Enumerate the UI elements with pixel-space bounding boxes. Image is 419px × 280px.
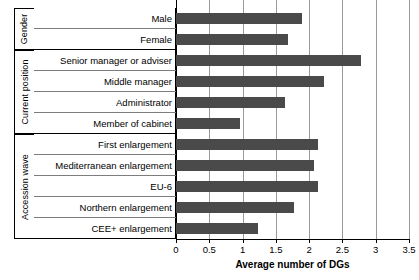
bar-chart: GenderCurrent positionAccession wave Mal… <box>0 0 419 280</box>
group-label-column: GenderCurrent positionAccession wave <box>14 8 34 239</box>
x-tick-0 <box>176 239 177 243</box>
category-label-column: MaleFemaleSenior manager or adviserMiddl… <box>34 8 176 239</box>
x-tick-0.5 <box>209 239 210 243</box>
category-label: Male <box>34 8 176 29</box>
x-tick-label: 1.5 <box>261 244 291 255</box>
category-label: Member of cabinet <box>34 113 176 134</box>
bar <box>176 97 285 108</box>
plot-area <box>176 0 409 239</box>
bar <box>176 181 318 192</box>
x-tick-3 <box>376 239 377 243</box>
x-tick-label: 3 <box>361 244 391 255</box>
category-label: Northern enlargement <box>34 197 176 218</box>
bar <box>176 76 324 87</box>
x-tick-2 <box>309 239 310 243</box>
bar <box>176 34 288 45</box>
gridline-3 <box>376 0 377 239</box>
x-tick-label: 1 <box>228 244 258 255</box>
category-label: Mediterranean enlargement <box>34 155 176 176</box>
bar <box>176 118 240 129</box>
gridline-2 <box>309 0 310 239</box>
category-label: EU-6 <box>34 176 176 197</box>
bar <box>176 160 314 171</box>
x-tick-label: 0 <box>161 244 191 255</box>
x-tick-label: 2 <box>294 244 324 255</box>
group-label-text: Accession wave <box>20 154 30 220</box>
group-label: Gender <box>14 8 34 50</box>
x-tick-2.5 <box>342 239 343 243</box>
group-label: Accession wave <box>14 134 34 239</box>
x-axis-title: Average number of DGs <box>176 259 409 270</box>
x-tick-1.5 <box>276 239 277 243</box>
gridline-2.5 <box>342 0 343 239</box>
x-tick-label: 3.5 <box>394 244 419 255</box>
category-label: Female <box>34 29 176 50</box>
bar <box>176 139 318 150</box>
group-label-text: Current position <box>20 59 30 124</box>
category-label: Administrator <box>34 92 176 113</box>
bar <box>176 13 302 24</box>
category-label: Middle manager <box>34 71 176 92</box>
bar <box>176 202 294 213</box>
category-label: CEE+ enlargement <box>34 218 176 239</box>
x-tick-1 <box>243 239 244 243</box>
x-tick-label: 2.5 <box>327 244 357 255</box>
x-tick-3.5 <box>409 239 410 243</box>
x-tick-label: 0.5 <box>194 244 224 255</box>
group-label-text: Gender <box>20 14 30 45</box>
group-label: Current position <box>14 50 34 134</box>
gridline-3.5 <box>409 0 410 239</box>
bar <box>176 55 361 66</box>
bar <box>176 223 258 234</box>
category-label: First enlargement <box>34 134 176 155</box>
category-label: Senior manager or adviser <box>34 50 176 71</box>
x-axis-line <box>176 239 409 240</box>
